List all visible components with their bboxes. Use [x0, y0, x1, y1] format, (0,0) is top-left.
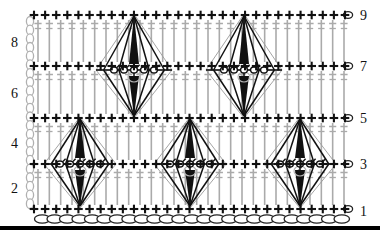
dc-stitch: [261, 169, 268, 205]
dc-stitch: [193, 20, 200, 62]
dc-stitch: [80, 20, 87, 62]
sc-row: [30, 160, 350, 169]
dc-stitch: [329, 169, 336, 205]
dc-stitch: [329, 123, 336, 160]
dc-stitch: [114, 169, 121, 205]
picot-ring: [221, 67, 228, 73]
dc-stitch: [295, 71, 302, 114]
dc-stitch: [80, 71, 87, 114]
dc-stitch: [306, 20, 313, 62]
dc-stitch: [193, 71, 200, 114]
dc-stitch: [34, 169, 41, 205]
dc-stitch: [34, 20, 41, 62]
dc-stitch: [57, 20, 64, 62]
dc-stitch: [272, 123, 279, 160]
row-label-8: 8: [4, 36, 18, 50]
dc-stitch: [125, 169, 132, 205]
dc-stitch: [318, 20, 325, 62]
dc-stitch: [216, 123, 223, 160]
dc-stitch: [68, 71, 75, 114]
chain-link: [26, 199, 33, 209]
dc-stitch: [46, 169, 53, 205]
dc-stitch: [136, 169, 143, 205]
sc-row: [30, 11, 350, 20]
dc-stitch: [125, 123, 132, 160]
dc-stitch: [148, 169, 155, 205]
dc-stitch: [114, 123, 121, 160]
dc-stitch: [204, 123, 211, 160]
dc-stitch: [295, 20, 302, 62]
dc-stitch: [34, 71, 41, 114]
dc-stitch: [148, 123, 155, 160]
dc-stitch: [170, 20, 177, 62]
dc-stitch: [136, 123, 143, 160]
picot-loop-symbol: [317, 159, 326, 167]
dc-stitch: [340, 123, 347, 160]
picot-tail: [193, 159, 196, 162]
picot-loop-symbol: [57, 159, 66, 167]
picot-tail: [213, 159, 216, 162]
dc-stitch: [227, 123, 234, 160]
dc-stitch: [250, 123, 257, 160]
dc-stitch: [284, 20, 291, 62]
chain-link: [334, 215, 349, 223]
picot-tail: [303, 159, 306, 162]
dc-stitch: [272, 20, 279, 62]
dc-stitch: [114, 71, 121, 114]
dc-stitch: [284, 71, 291, 114]
dc-stitch: [204, 71, 211, 114]
row-label-1: 1: [360, 205, 374, 219]
sc-row: [30, 205, 350, 214]
dc-stitch: [182, 71, 189, 114]
row-label-5: 5: [360, 112, 374, 126]
row-label-4: 4: [4, 137, 18, 151]
dc-stitch: [204, 20, 211, 62]
picot-tail: [293, 159, 296, 162]
dc-stitch: [329, 20, 336, 62]
sc-row: [30, 62, 350, 71]
row-label-7: 7: [360, 60, 374, 74]
row-label-2: 2: [4, 182, 18, 196]
picot-tail: [73, 159, 76, 162]
dc-stitch: [250, 71, 257, 114]
picot-loop-symbol: [187, 159, 196, 167]
dc-stitch: [91, 20, 98, 62]
picot-loop-symbol: [287, 159, 296, 167]
dc-stitch: [227, 169, 234, 205]
dc-stitch: [182, 20, 189, 62]
row-label-3: 3: [360, 158, 374, 172]
picot-tail: [103, 159, 106, 162]
dc-stitch: [318, 71, 325, 114]
picot-tail: [127, 65, 130, 68]
dc-stitch: [68, 20, 75, 62]
dc-stitch: [238, 123, 245, 160]
dc-stitch: [170, 71, 177, 114]
dc-stitch: [329, 71, 336, 114]
motif-layer: [44, 14, 336, 208]
row-label-9: 9: [360, 9, 374, 23]
row-label-6: 6: [4, 87, 18, 101]
turning-chain-column: [26, 16, 33, 208]
dc-stitch: [340, 169, 347, 205]
dc-stitch: [204, 169, 211, 205]
picot-tail: [183, 159, 186, 162]
picot-tail: [63, 159, 66, 162]
dc-stitch: [34, 123, 41, 160]
dc-stitch: [102, 169, 109, 205]
dc-stitch: [261, 123, 268, 160]
picot-ring: [121, 67, 128, 73]
dc-stitch: [159, 123, 166, 160]
crochet-chart-canvas: 864297531: [0, 0, 380, 231]
dc-stitch: [340, 20, 347, 62]
dc-stitch: [46, 20, 53, 62]
sc-row: [30, 114, 350, 123]
stitch-diagram-svg: [0, 0, 380, 231]
dc-stitch: [91, 71, 98, 114]
dc-stitch: [306, 71, 313, 114]
dc-stitch: [250, 169, 257, 205]
dc-stitch: [216, 169, 223, 205]
dc-stitch: [46, 71, 53, 114]
dc-stitch: [340, 71, 347, 114]
dc-stitch: [57, 71, 64, 114]
picot-tail: [283, 159, 286, 162]
